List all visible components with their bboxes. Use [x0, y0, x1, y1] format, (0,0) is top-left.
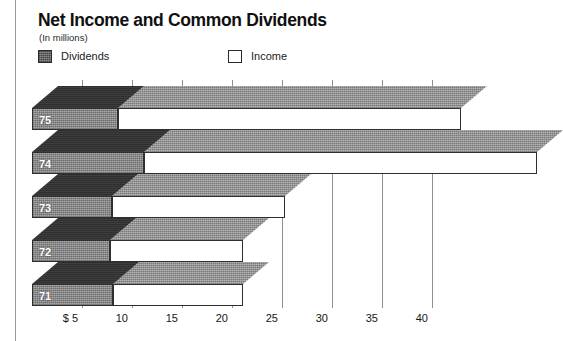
bar-segment-income — [112, 196, 285, 218]
legend-swatch-dividends-icon — [38, 50, 52, 63]
x-tick-label-15: 15 — [136, 312, 178, 324]
plot-area: 7574737271 — [0, 80, 448, 308]
x-tick-label-30: 30 — [286, 312, 328, 324]
bar-top-face-income — [113, 262, 269, 284]
x-tick-label-10: 10 — [86, 312, 128, 324]
bar-year-label-74: 74 — [39, 159, 51, 170]
legend-item-income: Income — [228, 48, 287, 64]
bar-segment-income — [113, 284, 243, 306]
bar-top-face-income — [112, 174, 311, 196]
chart-title: Net Income and Common Dividends — [38, 10, 327, 31]
x-tick-label-35: 35 — [336, 312, 378, 324]
bar-year-label-73: 73 — [39, 203, 51, 214]
legend-swatch-income-icon — [228, 50, 242, 63]
bar-year-label-71: 71 — [39, 291, 51, 302]
chart-subtitle: (In millions) — [39, 32, 88, 43]
x-axis: $ 510152025303540 — [0, 308, 448, 341]
bar-top-face-income — [144, 130, 563, 152]
x-tick-label-25: 25 — [236, 312, 278, 324]
bar-year-label-72: 72 — [39, 247, 51, 258]
bar-segment-income — [118, 108, 461, 130]
legend-label-income: Income — [251, 50, 287, 62]
bar-segment-income — [110, 240, 243, 262]
legend-item-dividends: Dividends — [38, 48, 109, 64]
x-tick-label-40: 40 — [386, 312, 428, 324]
legend-label-dividends: Dividends — [61, 50, 109, 62]
bar-top-face-income — [110, 218, 269, 240]
bar-segment-income — [144, 152, 537, 174]
chart-legend: Dividends Income — [38, 48, 338, 66]
bar-top-face-income — [118, 86, 487, 108]
x-tick-label-20: 20 — [186, 312, 228, 324]
x-tick-label-5: $ 5 — [36, 312, 78, 324]
bar-year-label-75: 75 — [39, 115, 51, 126]
